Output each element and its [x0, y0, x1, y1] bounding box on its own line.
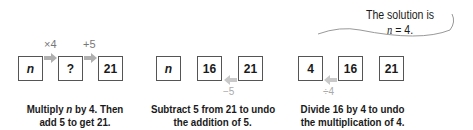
solution-bubble: The solution is n = 4.	[352, 8, 449, 38]
variable-box: n	[18, 56, 43, 81]
unknown-box: ?	[58, 56, 83, 81]
panel2-caption: Subtract 5 from 21 to undo the addition …	[151, 103, 274, 129]
intermediate-box: 16	[338, 56, 363, 81]
result-box: 21	[98, 56, 123, 81]
right-arrow-icon	[84, 53, 98, 63]
left-arrow-icon	[223, 75, 237, 85]
panel3-caption: Divide 16 by 4 to undo the multiplicatio…	[291, 103, 414, 129]
bubble-line2: n = 4.	[352, 23, 449, 38]
variable-box: n	[156, 56, 181, 81]
result-box: 21	[379, 56, 404, 81]
result-box: 21	[238, 56, 263, 81]
intermediate-box: 16	[197, 56, 222, 81]
subtract-op-label: −5	[223, 86, 234, 97]
add-op-label: +5	[83, 38, 96, 50]
bubble-line1: The solution is	[352, 8, 449, 23]
left-arrow-icon	[323, 75, 337, 85]
solution-box: 4	[298, 56, 323, 81]
right-arrow-icon	[44, 53, 58, 63]
divide-op-label: ÷4	[323, 86, 334, 97]
panel1-caption: Multiply n by 4. Then add 5 to get 21.	[16, 103, 135, 129]
multiply-op-label: ×4	[44, 38, 57, 50]
